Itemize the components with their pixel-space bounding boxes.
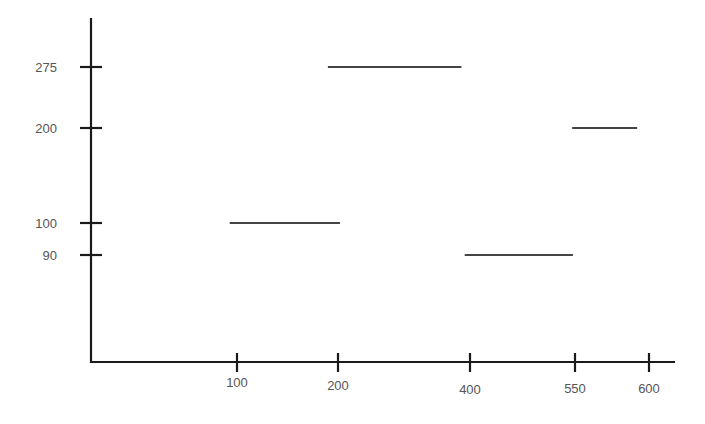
y-tick-label: 200 — [35, 121, 57, 136]
y-tick-label: 275 — [35, 60, 57, 75]
x-tick-label: 200 — [327, 378, 349, 393]
x-tick-label: 100 — [226, 375, 248, 390]
x-tick-label: 600 — [638, 381, 660, 396]
data-segments — [230, 67, 637, 255]
x-ticks: 100200400550600 — [226, 353, 660, 397]
step-segment-chart: 90100200275 100200400550600 — [0, 0, 705, 424]
x-tick-label: 400 — [459, 382, 481, 397]
y-tick-label: 90 — [43, 248, 57, 263]
x-tick-label: 550 — [564, 381, 586, 396]
y-tick-label: 100 — [35, 216, 57, 231]
